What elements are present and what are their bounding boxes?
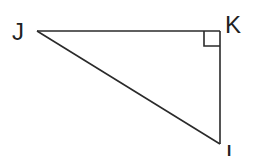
right-angle-marker-icon	[204, 31, 220, 46]
vertex-label-l: L	[226, 140, 239, 156]
triangle-jkl	[37, 31, 220, 144]
triangle-diagram: J K L	[0, 0, 256, 156]
vertex-label-j: J	[12, 18, 24, 45]
vertex-label-k: K	[225, 11, 241, 38]
side-jl	[37, 31, 220, 144]
